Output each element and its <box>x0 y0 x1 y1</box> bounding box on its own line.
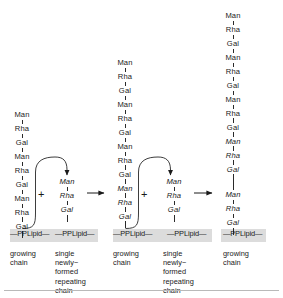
residue: Gal <box>16 138 28 148</box>
residue: Rha <box>226 25 240 35</box>
chain-col4: Man Rha Gal <box>158 177 190 222</box>
bond-linker <box>233 174 234 190</box>
residue: Gal <box>168 205 180 215</box>
figure-canvas: Man Rha Gal Man Rha Gal Man Rha Gal —PPL… <box>0 0 283 298</box>
residue: Rha <box>167 191 181 201</box>
chain-col1: Man Rha Gal Man Rha Gal Man Rha Gal <box>6 110 38 238</box>
residue: Man <box>14 110 29 120</box>
residue: Rha <box>60 191 74 201</box>
lipid-label-col4: —PPLipid— <box>167 229 206 239</box>
residue: Gal <box>119 86 131 96</box>
residue: Man <box>225 137 240 147</box>
caption-col4: single newly− formed repeating chain <box>163 249 194 295</box>
residue: Gal <box>119 212 131 222</box>
residue: Man <box>117 142 132 152</box>
residue: Gal <box>227 218 239 228</box>
plus-sign-1: + <box>38 189 44 200</box>
residue: Man <box>225 190 240 200</box>
caption-col1: growing chain <box>10 249 36 267</box>
residue: Man <box>117 100 132 110</box>
residue: Gal <box>227 123 239 133</box>
residue: Man <box>225 11 240 21</box>
residue: Man <box>59 177 74 187</box>
chain-col3: Man Rha Gal Man Rha Gal Man Rha Gal Man … <box>109 58 141 228</box>
residue: Gal <box>16 180 28 190</box>
residue: Rha <box>226 109 240 119</box>
residue: Gal <box>227 39 239 49</box>
residue: Rha <box>15 166 29 176</box>
residue: Rha <box>15 124 29 134</box>
chain-col2: Man Rha Gal <box>51 177 83 222</box>
residue: Rha <box>15 208 29 218</box>
residue: Rha <box>118 156 132 166</box>
lipid-label-col5: —PPLipid— <box>223 229 262 239</box>
residue: Gal <box>227 165 239 175</box>
bond-to-lipid <box>174 215 175 222</box>
bond-to-lipid <box>125 221 126 228</box>
residue: Rha <box>226 67 240 77</box>
caption-col3: growing chain <box>113 249 139 267</box>
lipid-label-col3: —PPLipid— <box>113 229 152 239</box>
residue: Man <box>117 184 132 194</box>
residue: Man <box>14 152 29 162</box>
residue: Rha <box>226 204 240 214</box>
residue: Rha <box>118 72 132 82</box>
residue: Rha <box>118 114 132 124</box>
caption-col5: growing chain <box>223 249 249 267</box>
residue: Gal <box>119 170 131 180</box>
bottom-divider <box>4 290 279 291</box>
chain-col5: Man Rha Gal Man Rha Gal Man Rha Gal Man … <box>217 11 249 235</box>
residue: Man <box>14 194 29 204</box>
residue: Man <box>225 53 240 63</box>
residue: Man <box>117 58 132 68</box>
residue: Gal <box>119 128 131 138</box>
residue: Rha <box>226 151 240 161</box>
plus-sign-2: + <box>141 189 147 200</box>
lipid-label-col2: —PPLipid— <box>55 229 94 239</box>
residue: Man <box>225 95 240 105</box>
residue: Gal <box>61 205 73 215</box>
lipid-label-col1: —PPLipid— <box>10 229 49 239</box>
residue: Man <box>166 177 181 187</box>
caption-col2: single newly− formed repeating chain <box>55 249 86 295</box>
residue: Gal <box>227 81 239 91</box>
residue: Rha <box>118 198 132 208</box>
bond-to-lipid <box>67 215 68 222</box>
